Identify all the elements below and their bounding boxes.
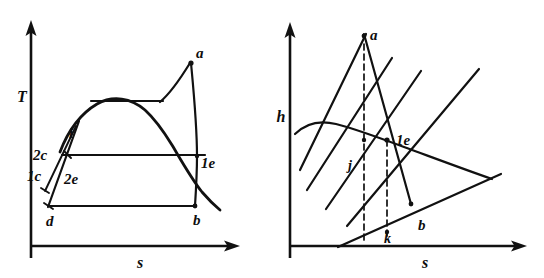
right-label-1e: 1e bbox=[396, 132, 411, 148]
right-label-j: j bbox=[346, 158, 352, 173]
figure-root: T s a i 2c 1c 2e 1e d b bbox=[0, 0, 544, 278]
tick-1c bbox=[41, 188, 49, 193]
right-point-j-marker bbox=[362, 138, 366, 142]
point-1e-marker bbox=[195, 154, 199, 158]
left-label-d: d bbox=[46, 213, 54, 229]
left-label-1c: 1c bbox=[27, 168, 42, 184]
right-y-axis-label: h bbox=[277, 108, 286, 125]
point-a-marker bbox=[188, 60, 193, 65]
left-panel-ts-diagram: T s a i 2c 1c 2e 1e d b bbox=[17, 20, 240, 271]
left-label-1e: 1e bbox=[201, 155, 216, 171]
right-x-axis-label: s bbox=[421, 254, 428, 271]
line-1e-to-b bbox=[195, 156, 197, 206]
right-point-1e-marker bbox=[384, 137, 389, 142]
right-label-b: b bbox=[418, 217, 426, 233]
right-label-k: k bbox=[384, 231, 391, 246]
left-x-axis-label: s bbox=[136, 254, 143, 271]
superheat-branch-to-a bbox=[160, 63, 190, 102]
left-label-2e: 2e bbox=[63, 171, 79, 187]
right-isobar-4 bbox=[347, 69, 479, 226]
left-label-2c: 2c bbox=[32, 147, 48, 163]
expansion-a-to-1e bbox=[191, 63, 197, 156]
right-point-a-marker bbox=[362, 34, 367, 39]
left-y-axis-label: T bbox=[17, 88, 28, 105]
compression-outer-d-to-i bbox=[48, 121, 79, 207]
thermodynamic-diagram-svg: T s a i 2c 1c 2e 1e d b bbox=[0, 0, 544, 278]
right-label-a: a bbox=[370, 27, 378, 43]
right-panel-hs-diagram: h s a 1e j k b bbox=[277, 22, 527, 271]
right-point-b-marker bbox=[409, 202, 414, 207]
right-lower-line-through-k bbox=[338, 174, 501, 247]
left-label-b: b bbox=[193, 212, 201, 228]
point-b-marker bbox=[193, 204, 198, 209]
left-label-a: a bbox=[196, 45, 204, 61]
